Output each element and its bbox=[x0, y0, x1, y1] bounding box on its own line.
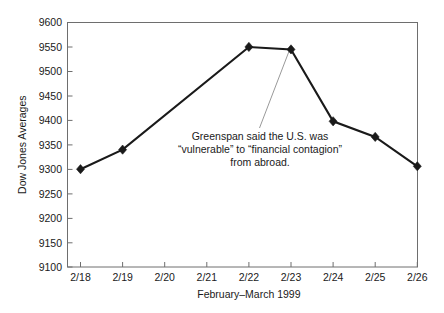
y-tick-label-9300: 9300 bbox=[39, 163, 63, 175]
x-tick-label-2-26: 2/26 bbox=[407, 271, 428, 283]
x-tick-label-2-22: 2/22 bbox=[239, 271, 260, 283]
x-tick-label-2-19: 2/19 bbox=[112, 271, 133, 283]
annotation-line-1: Greenspan said the U.S. was bbox=[192, 130, 329, 142]
chart-background bbox=[0, 0, 444, 313]
annotation-line-2: “vulnerable” to “financial contagion” bbox=[178, 143, 343, 155]
x-tick-label-2-21: 2/21 bbox=[197, 271, 218, 283]
y-tick-label-9600: 9600 bbox=[39, 16, 63, 28]
y-tick-label-9200: 9200 bbox=[39, 212, 63, 224]
x-axis-tick-labels: 2/18 2/19 2/20 2/21 2/22 2/23 2/24 2/25 … bbox=[70, 271, 427, 283]
x-tick-label-2-23: 2/23 bbox=[281, 271, 302, 283]
y-tick-label-9150: 9150 bbox=[39, 237, 63, 249]
y-tick-label-9550: 9550 bbox=[39, 41, 63, 53]
y-tick-label-9100: 9100 bbox=[39, 261, 63, 273]
x-tick-label-2-18: 2/18 bbox=[70, 271, 91, 283]
line-chart: 9600 9550 9500 9450 9400 9350 9300 9250 … bbox=[0, 0, 444, 313]
x-axis-title: February–March 1999 bbox=[197, 288, 300, 300]
y-tick-label-9400: 9400 bbox=[39, 114, 63, 126]
chart-figure: 9600 9550 9500 9450 9400 9350 9300 9250 … bbox=[0, 0, 444, 313]
y-tick-label-9250: 9250 bbox=[39, 188, 63, 200]
annotation-line-3: from abroad. bbox=[230, 156, 290, 168]
y-tick-label-9450: 9450 bbox=[39, 90, 63, 102]
y-tick-label-9500: 9500 bbox=[39, 65, 63, 77]
y-axis-title: Dow Jones Averages bbox=[16, 95, 28, 193]
y-tick-label-9350: 9350 bbox=[39, 139, 63, 151]
x-tick-label-2-25: 2/25 bbox=[365, 271, 386, 283]
x-tick-label-2-24: 2/24 bbox=[323, 271, 344, 283]
x-tick-label-2-20: 2/20 bbox=[154, 271, 175, 283]
